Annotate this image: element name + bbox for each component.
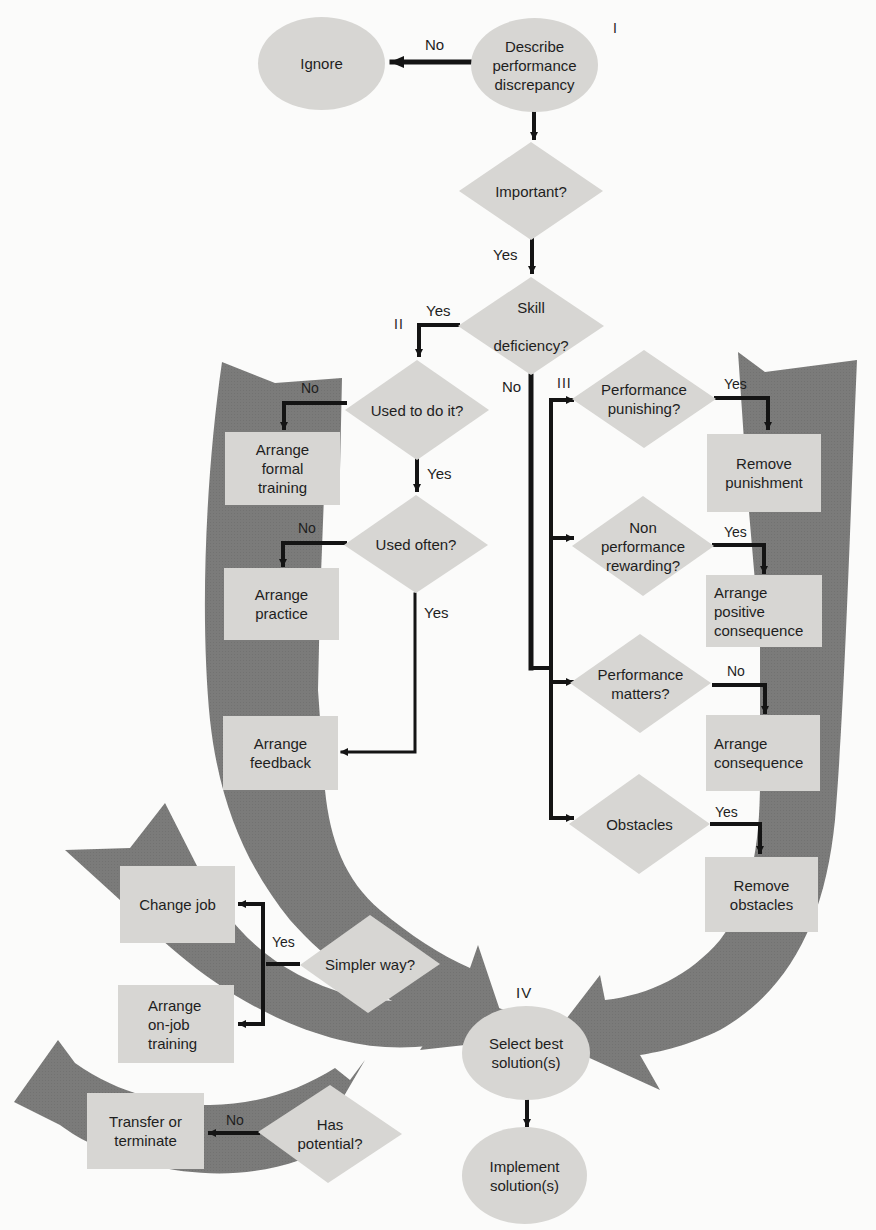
decision-simpler-way-label: Simpler way?: [300, 915, 440, 1013]
edge-label-punishing-yes: Yes: [724, 376, 747, 392]
decision-performance-matters-label: Performance matters?: [570, 634, 711, 733]
stage-label-iv: IV: [516, 984, 532, 1001]
edge-label-important-yes: Yes: [493, 246, 517, 263]
decision-obstacles-label: Obstacles: [569, 774, 710, 874]
node-implement-solutions: Implement solution(s): [462, 1127, 587, 1224]
stage-label-i: I: [613, 20, 618, 36]
decision-used-to-do-it-label: Used to do it?: [345, 360, 489, 460]
edge-label-used-often-no: No: [298, 520, 316, 536]
edge-label-used-to-do-yes: Yes: [427, 465, 451, 482]
edge-label-rewarding-yes: Yes: [724, 524, 747, 540]
edge-label-used-often-yes: Yes: [424, 604, 448, 621]
action-arrange-consequence: Arrange consequence: [706, 715, 820, 791]
decision-used-often-label: Used often?: [344, 495, 488, 593]
edge-label-matters-no: No: [727, 663, 745, 679]
action-arrange-on-job-training: Arrange on-job training: [118, 985, 234, 1063]
action-change-job: Change job: [120, 866, 235, 943]
action-remove-punishment: Remove punishment: [707, 434, 821, 512]
decision-has-potential-label: Has potential?: [258, 1085, 402, 1183]
stage-label-ii: II: [394, 316, 404, 332]
node-ignore: Ignore: [258, 17, 385, 110]
node-select-best-solutions: Select best solution(s): [462, 1006, 590, 1100]
action-transfer-or-terminate: Transfer or terminate: [87, 1093, 204, 1169]
action-remove-obstacles: Remove obstacles: [705, 857, 818, 932]
decision-non-performance-rewarding-label: Non performance rewarding?: [572, 496, 714, 596]
performance-analysis-flowchart: Ignore Describe performance discrepancy …: [0, 0, 876, 1230]
edge-label-potential-no: No: [226, 1112, 244, 1128]
action-arrange-feedback: Arrange feedback: [223, 716, 338, 790]
action-arrange-practice: Arrange practice: [224, 568, 339, 640]
edge-label-used-to-do-no: No: [301, 380, 319, 396]
decision-important-label: Important?: [459, 142, 603, 240]
edge-label-skill-yes: Yes: [426, 302, 450, 319]
edge-label-describe-ignore: No: [425, 36, 444, 53]
action-arrange-positive-consequence: Arrange positive consequence: [706, 575, 822, 647]
node-describe-discrepancy: Describe performance discrepancy: [471, 18, 598, 112]
edge-label-simpler-yes: Yes: [272, 934, 295, 950]
edge-label-obstacles-yes: Yes: [715, 804, 738, 820]
action-arrange-formal-training: Arrange formal training: [225, 432, 340, 505]
stage-label-iii: III: [557, 375, 572, 391]
decision-performance-punishing-label: Performance punishing?: [572, 350, 716, 448]
edge-label-skill-no: No: [502, 378, 521, 395]
